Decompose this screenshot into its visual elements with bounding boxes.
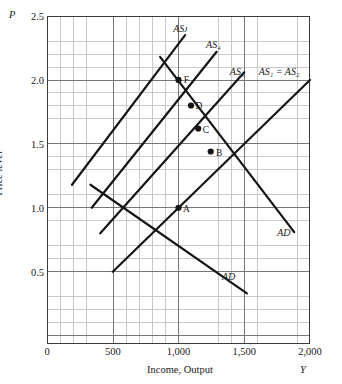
- x-tick-label: 500: [105, 346, 121, 357]
- y-tick-label: 1.5: [31, 138, 44, 149]
- equilibrium-point-a: [175, 205, 181, 211]
- curve-label-as1-as2: AS₁ = AS₂: [259, 66, 300, 77]
- y-axis-ticks: 2.52.01.51.00.5: [0, 0, 44, 384]
- equilibrium-point-d: [188, 102, 194, 108]
- x-tick-label: 1,500: [232, 346, 256, 357]
- y-axis-title: Price level: [0, 151, 4, 196]
- curve-label-ad-: AD′: [277, 227, 293, 238]
- curve-label-as3: AS₃: [230, 66, 245, 77]
- equilibrium-label-c: C: [203, 125, 209, 135]
- equilibrium-point-b: [208, 148, 214, 154]
- equilibrium-label-d: D: [196, 101, 203, 111]
- x-axis-title: Income, Output: [147, 364, 213, 375]
- y-tick-label: 2.5: [31, 11, 44, 22]
- x-tick-label: 0: [44, 346, 49, 357]
- equilibrium-label-f: F: [184, 75, 189, 85]
- y-tick-label: 2.0: [31, 74, 44, 85]
- equilibrium-label-b: B: [216, 148, 222, 158]
- x-tick-label: 2,000: [298, 346, 322, 357]
- curve-label-ad: AD: [222, 271, 235, 282]
- x-axis-variable: Y: [300, 364, 306, 375]
- curve-as3: [100, 72, 244, 233]
- x-tick-label: 1,000: [167, 346, 191, 357]
- equilibrium-point-f: [175, 77, 181, 83]
- equilibrium-label-a: A: [183, 204, 190, 214]
- curves-layer: [0, 0, 342, 384]
- y-axis-variable: P: [9, 9, 15, 20]
- curve-label-as4: AS₄: [206, 39, 221, 50]
- y-tick-label: 1.0: [31, 202, 44, 213]
- curve-label-asf: ASᴊ: [173, 23, 188, 34]
- equilibrium-point-c: [195, 125, 201, 131]
- chart-figure: 2.52.01.51.00.5 05001,0001,5002,000 ADAD…: [0, 0, 342, 384]
- y-tick-label: 0.5: [31, 266, 44, 277]
